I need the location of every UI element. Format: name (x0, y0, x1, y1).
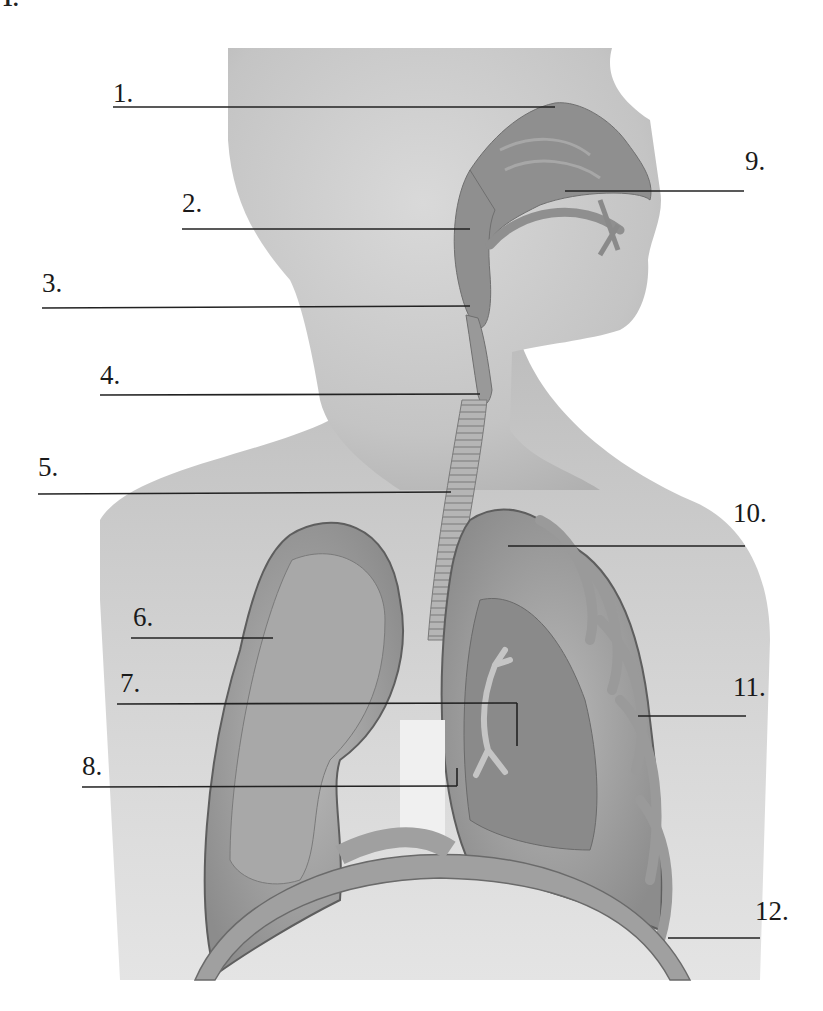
label-7: 7. (120, 670, 140, 697)
label-6: 6. (133, 604, 153, 631)
label-5: 5. (38, 454, 58, 481)
leader-line-7 (117, 703, 517, 704)
leader-line-8 (82, 786, 457, 787)
label-11: 11. (733, 674, 766, 701)
anatomy-illustration (0, 0, 823, 1011)
label-4: 4. (100, 362, 120, 389)
label-12: 12. (755, 898, 789, 925)
respiratory-diagram: 1. (0, 0, 823, 1011)
label-2: 2. (182, 190, 202, 217)
label-9: 9. (745, 148, 765, 175)
mediastinum (400, 720, 445, 840)
label-8: 8. (82, 753, 102, 780)
leader-line-4 (100, 394, 480, 395)
label-1: 1. (113, 80, 133, 107)
label-10: 10. (733, 500, 767, 527)
label-3: 3. (42, 270, 62, 297)
